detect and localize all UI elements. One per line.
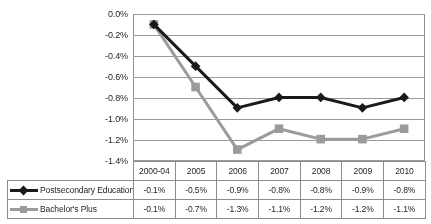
data-table: 2000-04 2005 2006 2007 2008 2009 2010 Po…: [7, 161, 426, 219]
series-bachelors-plus: [149, 20, 409, 113]
y-axis-tick-label: -0.6%: [84, 73, 128, 82]
data-point-square-marker: [358, 135, 367, 144]
data-point-square-marker: [233, 145, 242, 154]
table-cell: -1.1%: [384, 200, 426, 219]
table-column-header: 2007: [259, 162, 301, 181]
table-cell: -0.9%: [342, 181, 384, 200]
table-column-header: 2006: [217, 162, 259, 181]
table-row: Postsecondary Education -0.1% -0.5% -0.9…: [8, 181, 426, 200]
data-point-square-marker: [316, 135, 325, 144]
table-row: Bachelor's Plus -0.1% -0.7% -1.3% -1.1% …: [8, 200, 426, 219]
y-axis-tick-label: -0.2%: [84, 31, 128, 40]
table-cell: -1.3%: [217, 200, 259, 219]
y-axis-tick-label: -0.4%: [84, 52, 128, 61]
legend-item-postsecondary-education[interactable]: Postsecondary Education: [8, 181, 134, 200]
table-cell: -0.8%: [384, 181, 426, 200]
legend-key-diamond-icon: [10, 185, 38, 195]
series-layer: [133, 14, 425, 161]
table-column-header: 2010: [384, 162, 426, 181]
data-point-square-marker: [400, 124, 409, 133]
table-cell: -0.5%: [175, 181, 217, 200]
legend-key-square-icon: [10, 204, 38, 214]
table-column-header: 2005: [175, 162, 217, 181]
y-axis-tick-label: -1.2%: [84, 136, 128, 145]
table-cell: -0.8%: [300, 181, 342, 200]
table-cell: -0.1%: [134, 181, 176, 200]
table-header-row: 2000-04 2005 2006 2007 2008 2009 2010: [8, 162, 426, 181]
y-axis-tick-label: -1.0%: [84, 115, 128, 124]
data-point-diamond-marker: [274, 93, 284, 103]
table-column-header: 2000-04: [134, 162, 176, 181]
table-corner-cell: [8, 162, 134, 181]
table-cell: -1.1%: [259, 200, 301, 219]
table-column-header: 2008: [300, 162, 342, 181]
data-point-diamond-marker: [358, 103, 368, 113]
data-point-diamond-marker: [316, 93, 326, 103]
table-cell: -0.8%: [259, 181, 301, 200]
y-axis-tick-label: 0.0%: [84, 10, 128, 19]
y-axis-tick-label: -0.8%: [84, 94, 128, 103]
plot-area: [133, 14, 425, 161]
line-chart-with-data-table: 0.0% -0.2% -0.4% -0.6% -0.8% -1.0% -1.2%…: [0, 0, 431, 224]
table-cell: -1.2%: [342, 200, 384, 219]
data-point-square-marker: [275, 124, 284, 133]
legend-label: Postsecondary Education: [40, 185, 134, 195]
table-cell: -1.2%: [300, 200, 342, 219]
data-point-diamond-marker: [399, 93, 409, 103]
table-cell: -0.7%: [175, 200, 217, 219]
table-cell: -0.1%: [134, 200, 176, 219]
table-column-header: 2009: [342, 162, 384, 181]
series-postsecondary-education: [150, 20, 409, 154]
table-cell: -0.9%: [217, 181, 259, 200]
legend-label: Bachelor's Plus: [40, 204, 97, 214]
legend-item-bachelors-plus[interactable]: Bachelor's Plus: [8, 200, 134, 219]
data-point-square-marker: [191, 83, 200, 92]
